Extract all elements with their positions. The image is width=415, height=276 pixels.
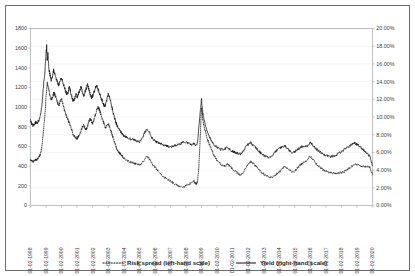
legend-label: Risk spread (left-hand scale): [127, 259, 210, 266]
right-axis-tick-label: 12.00%: [376, 96, 394, 102]
left-axis-tick-label: 400: [18, 163, 27, 169]
series-group: [31, 45, 373, 188]
left-axis-tick-label: 800: [18, 124, 27, 130]
right-axis-tick-label: 16.00%: [376, 61, 394, 67]
left-axis-tick-label: 0: [24, 202, 27, 208]
x-axis-tick-label: 01-02-2011: [229, 247, 235, 273]
legend-label: Yield (right-hand scale): [260, 259, 327, 266]
x-axis-tick-label: 01-02-2010: [214, 247, 220, 273]
x-axis-tick-label: 01-02-2012: [245, 247, 251, 273]
left-axis-tick-label: 600: [18, 143, 27, 149]
right-axis-tick-label: 0.00%: [376, 202, 391, 208]
right-axis-tick-label: 2.00%: [376, 185, 391, 191]
x-axis-tick-label: 01-02-2018: [338, 247, 344, 273]
dual-axis-line-chart: 020040060080010001200140016001800 0.00%2…: [0, 0, 415, 276]
left-axis-tick-label: 1200: [15, 84, 27, 90]
gridlines-group: [31, 29, 373, 206]
left-axis-tick-label: 200: [18, 183, 27, 189]
right-axis-tick-labels: 0.00%2.00%4.00%6.00%8.00%10.00%12.00%14.…: [376, 25, 394, 208]
series-yield: [31, 45, 373, 166]
left-axis-tick-label: 1800: [15, 25, 27, 31]
x-axis-tick-label: 01-02-2003: [105, 247, 111, 273]
right-axis-tick-label: 8.00%: [376, 132, 391, 138]
right-axis-tick-label: 10.00%: [376, 114, 394, 120]
x-axis-tick-label: 01-02-2001: [74, 247, 80, 273]
x-axis-tick-label: 01-02-2004: [121, 247, 127, 273]
left-axis-tick-labels: 020040060080010001200140016001800: [15, 25, 27, 208]
x-axis-tick-label: 01-02-2002: [90, 247, 96, 273]
left-axis-tick-label: 1000: [15, 104, 27, 110]
x-axis-tick-label: 01-02-1998: [27, 247, 33, 273]
right-axis-tick-label: 6.00%: [376, 149, 391, 155]
left-axis-tick-label: 1400: [15, 65, 27, 71]
right-axis-tick-label: 20.00%: [376, 25, 394, 31]
x-axis-tick-label: 01-02-1999: [43, 247, 49, 273]
right-axis-tick-label: 14.00%: [376, 79, 394, 85]
x-axis-tick-label: 01-02-2020: [369, 247, 375, 273]
axes-group: [28, 29, 374, 208]
x-axis-tick-label: 01-02-2019: [354, 247, 360, 273]
x-axis-tick-label: 01-02-2000: [58, 247, 64, 273]
left-axis-tick-label: 1600: [15, 45, 27, 51]
chart-figure: 020040060080010001200140016001800 0.00%2…: [0, 0, 415, 276]
right-axis-tick-label: 4.00%: [376, 167, 391, 173]
right-axis-tick-label: 18.00%: [376, 43, 394, 49]
